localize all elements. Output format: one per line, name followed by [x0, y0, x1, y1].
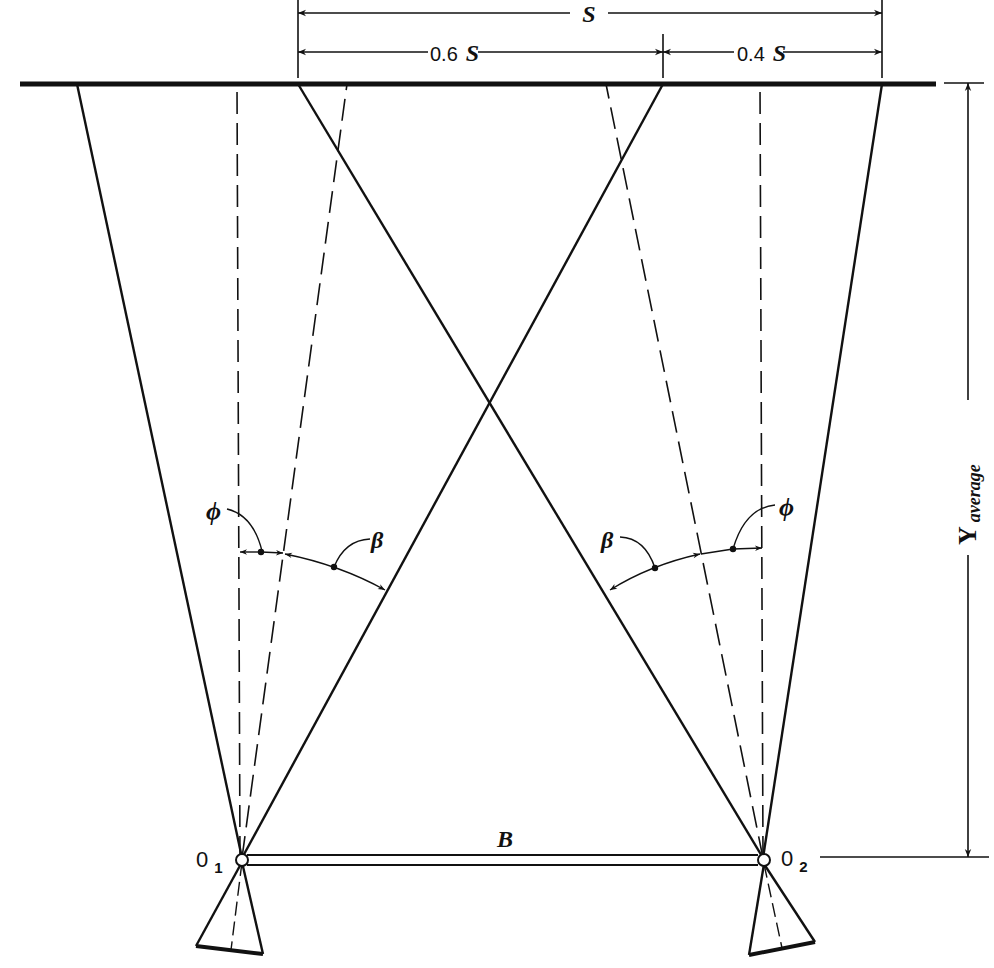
baseline-label: B — [496, 826, 513, 852]
left-beta-label: β — [370, 527, 384, 553]
left-station-label: 0 1 — [196, 847, 223, 876]
right-station-point — [758, 854, 770, 866]
dimension-S-label: S — [582, 1, 595, 27]
dimension-0-4S-label: 0.4 S — [737, 40, 786, 66]
right-angle-beta — [610, 537, 700, 590]
left-angle-phi — [227, 509, 283, 555]
right-camera-cone — [749, 864, 815, 955]
left-camera-cone — [196, 862, 263, 954]
height-label: Y average — [953, 464, 984, 545]
baseline — [247, 855, 758, 865]
left-phi-label: ϕ — [206, 497, 221, 526]
dimension-0-6S-label: 0.6 S — [430, 40, 479, 66]
stereo-diagram: S 0.6 S 0.4 S ϕ — [0, 0, 994, 968]
right-camera-rays — [298, 84, 882, 858]
left-station-point — [236, 854, 248, 866]
left-camera-rays — [77, 84, 663, 858]
left-angle-beta — [285, 539, 385, 590]
right-phi-label: ϕ — [779, 493, 794, 522]
right-angle-phi — [701, 505, 775, 554]
right-beta-label: β — [600, 527, 614, 553]
right-station-label: 0 2 — [781, 846, 808, 875]
